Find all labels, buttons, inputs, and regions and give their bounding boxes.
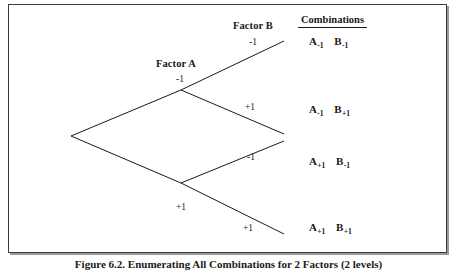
combination-term-a-4: A +1 bbox=[309, 222, 325, 233]
branch-label-b2-minus: -1 bbox=[247, 153, 255, 163]
branch-label-a-minus: -1 bbox=[176, 75, 184, 85]
branch-label-a-plus: +1 bbox=[176, 203, 186, 213]
combination-term-b-4: B +1 bbox=[336, 222, 351, 233]
combination-term-a-1: A -1 bbox=[309, 36, 323, 47]
combination-term-b-3: B -1 bbox=[336, 156, 350, 167]
figure-diagram: Factor A Factor B Combinations -1 +1 -1 … bbox=[0, 0, 457, 270]
edge-root-to-a-minus bbox=[71, 90, 181, 136]
figure-frame: Factor A Factor B Combinations -1 +1 -1 … bbox=[8, 4, 447, 253]
edge-a-minus-to-b-minus bbox=[181, 41, 284, 90]
edge-root-to-a-plus bbox=[71, 136, 181, 183]
combinations-header: Combinations bbox=[298, 15, 367, 28]
figure-caption: Figure 6.2. Enumerating All Combinations… bbox=[8, 258, 449, 270]
combination-row-2: A -1 B +1 bbox=[309, 104, 350, 115]
edge-a-plus-to-b-plus bbox=[181, 183, 284, 234]
combination-row-4: A +1 B +1 bbox=[309, 222, 352, 233]
branch-label-b1-minus: -1 bbox=[249, 38, 257, 48]
combination-term-b-1: B -1 bbox=[334, 36, 348, 47]
combination-row-1: A -1 B -1 bbox=[309, 36, 348, 47]
combination-term-a-2: A -1 bbox=[309, 104, 323, 115]
factor-b-label: Factor B bbox=[233, 21, 273, 32]
tree-branch-lines bbox=[9, 5, 448, 254]
factor-a-label: Factor A bbox=[156, 59, 196, 70]
branch-label-b2-plus: +1 bbox=[243, 224, 253, 234]
branch-label-b1-plus: +1 bbox=[245, 103, 255, 113]
combination-term-b-2: B +1 bbox=[334, 104, 349, 115]
combination-term-a-3: A +1 bbox=[309, 156, 325, 167]
combination-row-3: A +1 B -1 bbox=[309, 156, 350, 167]
edge-a-minus-to-b-plus bbox=[181, 90, 284, 134]
edge-a-plus-to-b-minus bbox=[181, 141, 284, 183]
